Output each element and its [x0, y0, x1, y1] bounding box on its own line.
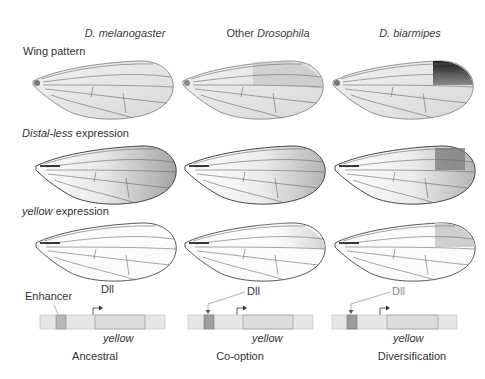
gene-diagram-diversification: [332, 292, 457, 329]
wing-photo-other-drosophila: [183, 61, 323, 119]
yellow-wing-other-drosophila: [185, 223, 325, 281]
yellow-gene-label-diversification: yellow: [393, 332, 424, 344]
stage-label-co-option: Co-option: [170, 350, 310, 362]
gene-diagram-ancestral: [40, 305, 165, 329]
yellow-wing-melanogaster: [36, 223, 176, 281]
gene-diagram-co-option: [188, 292, 313, 329]
wing-figure-art: [0, 0, 485, 379]
enhancer-label: Enhancer: [25, 290, 72, 302]
stage-label-diversification: Diversification: [342, 350, 482, 362]
yellow-gene-label-ancestral: yellow: [103, 332, 134, 344]
dll-wing-other-drosophila: [185, 146, 325, 204]
stage-label-ancestral: Ancestral: [25, 350, 165, 362]
dll-label-co-option: Dll: [247, 285, 260, 297]
dll-label-diversification: Dll: [392, 285, 405, 297]
yellow-wing-biarmipes: [335, 223, 475, 281]
dll-wing-melanogaster: [36, 146, 176, 204]
wing-photo-biarmipes: [333, 61, 473, 119]
dll-wing-biarmipes: [335, 146, 475, 204]
dll-label-ancestral: Dll: [101, 283, 114, 295]
yellow-gene-label-co-option: yellow: [252, 332, 283, 344]
wing-photo-melanogaster: [33, 61, 173, 119]
